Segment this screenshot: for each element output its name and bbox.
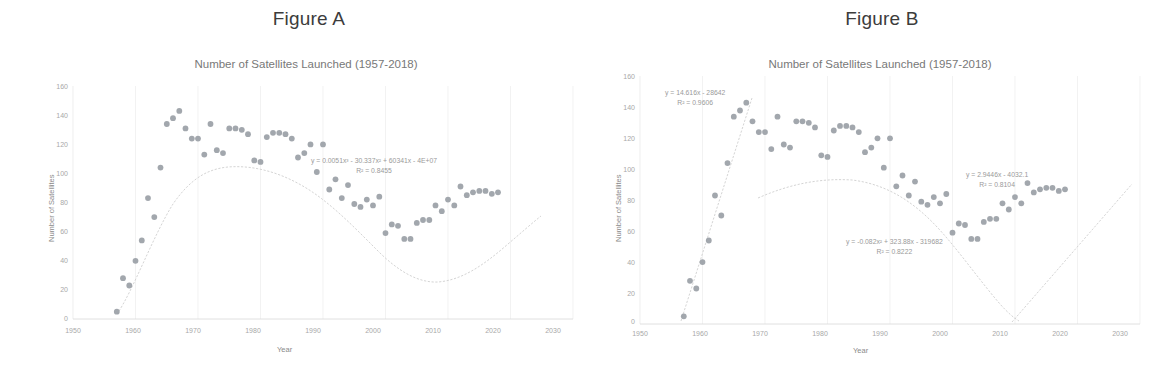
figure-b-trendlines bbox=[681, 98, 1132, 322]
figure-b-ytick-140: 140 bbox=[613, 104, 635, 111]
figure-a-chart-title: Number of Satellites Launched (1957-2018… bbox=[15, 58, 597, 70]
figure-a-xtick-2020: 2020 bbox=[478, 327, 508, 334]
figure-b-gridlines bbox=[640, 76, 1140, 324]
figure-b-ytick-40: 40 bbox=[613, 259, 635, 266]
figure-a-trendline-equation: y = 0.0051x³ - 30.337x² + 60341x - 4E+07… bbox=[311, 156, 437, 176]
figure-a-xtick-2010: 2010 bbox=[418, 327, 448, 334]
figure-a-xtick-1990: 1990 bbox=[298, 327, 328, 334]
figure-b-heading: Figure B bbox=[591, 8, 1163, 30]
figure-a-data-points bbox=[114, 108, 501, 315]
figure-b-equation-2-line1: y = -0.082x² + 323.88x - 319682 bbox=[846, 238, 943, 245]
figure-b-xtick-2000: 2000 bbox=[925, 330, 955, 337]
figure-b-xtick-1950: 1950 bbox=[625, 330, 655, 337]
figure-b-x-axis-title: Year bbox=[853, 346, 868, 355]
figure-a-xtick-2000: 2000 bbox=[358, 327, 388, 334]
figure-b-ytick-60: 60 bbox=[613, 228, 635, 235]
figure-a-gridlines bbox=[73, 86, 573, 319]
figure-a-xtick-2030: 2030 bbox=[538, 327, 568, 334]
figure-b-ytick-100: 100 bbox=[613, 166, 635, 173]
figure-b-ytick-20: 20 bbox=[613, 290, 635, 297]
figure-b-equation-2-rsquared: R² = 0.8222 bbox=[846, 247, 943, 257]
figure-b-xtick-1970: 1970 bbox=[745, 330, 775, 337]
figure-a-ytick-0: 0 bbox=[46, 315, 68, 322]
figure-b-trendline-segment-3 bbox=[1012, 184, 1132, 322]
figure-a-ytick-140: 140 bbox=[46, 112, 68, 119]
figure-b-xtick-2010: 2010 bbox=[985, 330, 1015, 337]
figure-a-xtick-1980: 1980 bbox=[238, 327, 268, 334]
figure-a-ytick-80: 80 bbox=[46, 199, 68, 206]
figure-b-equation-1-line1: y = 14.616x - 28642 bbox=[665, 89, 725, 96]
figure-a-ytick-160: 160 bbox=[46, 83, 68, 90]
figure-a-xtick-1970: 1970 bbox=[178, 327, 208, 334]
figure-b-ytick-160: 160 bbox=[613, 73, 635, 80]
figure-b-xtick-1960: 1960 bbox=[685, 330, 715, 337]
figure-b-ytick-80: 80 bbox=[613, 197, 635, 204]
figure-b-trendline-segment-1 bbox=[681, 98, 752, 321]
figure-b-xtick-2020: 2020 bbox=[1045, 330, 1075, 337]
figure-b-plot-area bbox=[640, 76, 1140, 326]
figure-a-equation-line1: y = 0.0051x³ - 30.337x² + 60341x - 4E+07 bbox=[311, 157, 437, 164]
slide-canvas: Figure A Number of Satellites Launched (… bbox=[0, 0, 1163, 384]
figure-b-xtick-1990: 1990 bbox=[865, 330, 895, 337]
figure-b-chart-title: Number of Satellites Launched (1957-2018… bbox=[589, 58, 1163, 70]
figure-b-xtick-1980: 1980 bbox=[805, 330, 835, 337]
figure-a-ytick-20: 20 bbox=[46, 286, 68, 293]
figure-b-trendline-equation-1: y = 14.616x - 28642 R² = 0.9606 bbox=[665, 88, 725, 108]
figure-a-xtick-1960: 1960 bbox=[118, 327, 148, 334]
figure-b-panel: Figure B Number of Satellites Launched (… bbox=[581, 0, 1163, 384]
figure-a-equation-rsquared: R² = 0.8455 bbox=[311, 166, 437, 176]
figure-b-ytick-120: 120 bbox=[613, 135, 635, 142]
figure-a-ytick-40: 40 bbox=[46, 257, 68, 264]
figure-b-trendline-equation-2: y = -0.082x² + 323.88x - 319682 R² = 0.8… bbox=[846, 237, 943, 257]
figure-a-xtick-1950: 1950 bbox=[58, 327, 88, 334]
figure-b-equation-3-rsquared: R² = 0.8104 bbox=[966, 180, 1028, 190]
figure-a-plot-area bbox=[73, 86, 573, 321]
figure-b-trendline-equation-3: y = 2.9446x - 4032.1 R² = 0.8104 bbox=[966, 170, 1028, 190]
figure-b-data-points bbox=[681, 100, 1068, 319]
figure-b-ytick-0: 0 bbox=[613, 318, 635, 325]
figure-b-equation-1-rsquared: R² = 0.9606 bbox=[665, 98, 725, 108]
figure-a-ytick-100: 100 bbox=[46, 170, 68, 177]
figure-a-ytick-60: 60 bbox=[46, 228, 68, 235]
figure-a-heading: Figure A bbox=[18, 8, 600, 30]
figure-b-equation-3-line1: y = 2.9446x - 4032.1 bbox=[966, 171, 1028, 178]
figure-b-xtick-2030: 2030 bbox=[1105, 330, 1135, 337]
figure-a-ytick-120: 120 bbox=[46, 141, 68, 148]
figure-a-panel: Figure A Number of Satellites Launched (… bbox=[0, 0, 582, 384]
figure-a-x-axis-title: Year bbox=[277, 345, 292, 354]
